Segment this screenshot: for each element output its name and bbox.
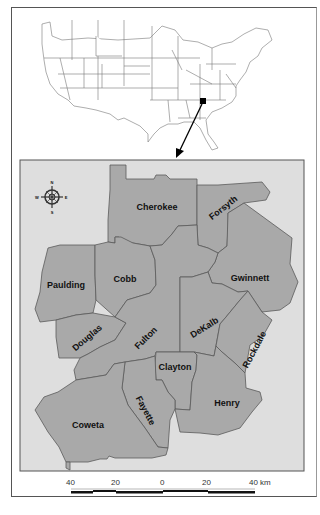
label-clayton: Clayton (158, 362, 191, 372)
compass-south: S (51, 210, 54, 215)
label-cobb: Cobb (114, 274, 137, 284)
label-paulding: Paulding (47, 280, 85, 290)
label-henry: Henry (214, 398, 240, 408)
scale-label-20-left: 20 (111, 478, 120, 487)
scale-label-40-left: 40 (66, 478, 75, 487)
compass-north: N (51, 180, 54, 185)
compass-west: W (35, 195, 39, 200)
scale-label-20-right: 20 (202, 478, 211, 487)
map-figure: Cherokee Forsyth Paulding Cobb Gwinnett … (0, 0, 320, 515)
us-locator-map (42, 20, 272, 150)
label-gwinnett: Gwinnett (231, 273, 270, 283)
label-coweta: Coweta (72, 420, 105, 430)
label-cherokee: Cherokee (136, 202, 177, 212)
compass-east: E (65, 195, 68, 200)
scale-bar (71, 489, 255, 494)
locator-marker (200, 98, 206, 104)
scale-label-40-km: 40 km (249, 478, 271, 487)
scale-label-0: 0 (160, 478, 164, 487)
